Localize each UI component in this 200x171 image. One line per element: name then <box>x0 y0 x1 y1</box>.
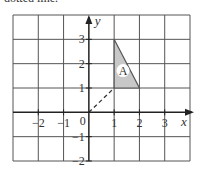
origin-label: 0 <box>80 114 86 128</box>
y-tick-label: −2 <box>72 154 85 168</box>
tick-labels: −2−1123321−1−2 <box>32 32 168 168</box>
x-tick-label: −2 <box>32 116 45 130</box>
x-tick-label: 3 <box>162 116 168 130</box>
y-tick-label: −1 <box>72 130 85 144</box>
x-tick-label: −1 <box>57 116 70 130</box>
shape-label: A <box>119 64 128 78</box>
coordinate-grid: −2−1123321−1−2 A x y 0 <box>0 0 200 171</box>
dashed-line <box>89 88 114 112</box>
y-axis-arrow-icon <box>85 15 92 24</box>
grid-lines <box>13 15 190 161</box>
y-tick-label: 3 <box>79 32 85 46</box>
y-axis-label: y <box>93 13 101 28</box>
y-tick-label: 1 <box>79 81 85 95</box>
y-tick-label: 2 <box>79 57 85 71</box>
x-axis-label: x <box>180 114 187 129</box>
x-tick-label: 2 <box>136 116 142 130</box>
x-tick-label: 1 <box>111 116 117 130</box>
